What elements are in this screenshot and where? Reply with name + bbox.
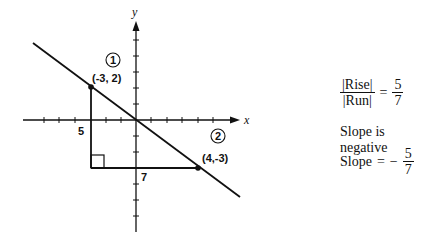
slope-value-denominator: 7: [403, 162, 414, 177]
rise-label: 5: [78, 125, 84, 137]
run-label: 7: [141, 171, 147, 183]
y-axis-label: y: [131, 5, 138, 19]
point-1-marker: 1: [110, 54, 116, 66]
ratio-value-numerator: 5: [392, 77, 403, 92]
point-2-marker: 2: [215, 130, 221, 142]
rise-abs: |Rise|: [340, 77, 375, 93]
ratio-value: 5 7: [392, 77, 403, 108]
right-angle-icon: [91, 155, 104, 168]
run-abs: |Run|: [341, 93, 374, 108]
rise-run-triangle: 5 7: [78, 87, 198, 183]
point-2: 2 (4,-3): [195, 129, 228, 171]
point-2-coordinates: (4,-3): [202, 152, 229, 164]
x-axis-label: x: [243, 113, 250, 127]
slope-label: Slope: [340, 154, 372, 170]
rise-run-ratio: |Rise| |Run| = 5 7: [340, 77, 403, 108]
coordinate-plane: x y 5 7 1 (-3, 2): [0, 0, 260, 238]
x-axis-arrow-icon: [230, 117, 240, 124]
point-1-coordinates: (-3, 2): [92, 72, 122, 84]
equals-sign: =: [380, 85, 388, 101]
slope-value: 5 7: [403, 146, 414, 177]
abs-ratio-fraction: |Rise| |Run|: [340, 77, 375, 108]
equals-sign: =: [377, 154, 385, 170]
negative-sign: −: [390, 154, 398, 170]
slope-equation: Slope = − 5 7: [340, 146, 414, 177]
ratio-value-denominator: 7: [392, 92, 403, 108]
point-1: 1 (-3, 2): [88, 53, 121, 90]
slope-value-numerator: 5: [403, 146, 414, 162]
y-axis-arrow-icon: [133, 21, 140, 31]
